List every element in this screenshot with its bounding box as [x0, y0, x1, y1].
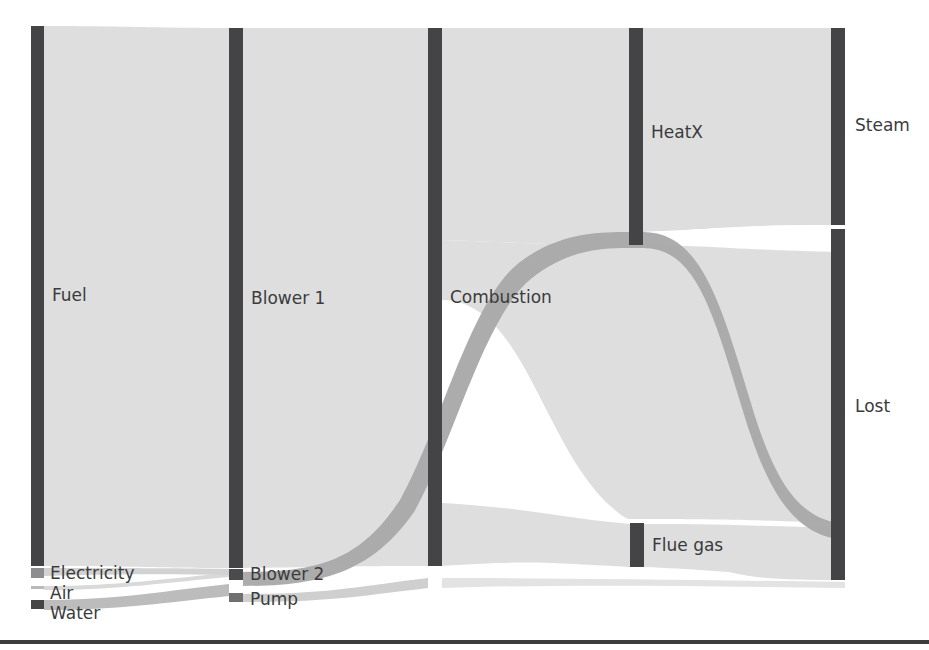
node-bar-steam[interactable]: [831, 28, 845, 225]
flow-combustion-to-heatx: [442, 28, 629, 245]
sankey-diagram: Fuel Blower 1 Combustion HeatX Steam Los…: [0, 0, 929, 650]
node-bar-blower2[interactable]: [229, 569, 243, 580]
flow-ribbons: [44, 26, 845, 610]
node-label-blower1: Blower 1: [251, 288, 325, 308]
node-label-fuel: Fuel: [52, 285, 87, 305]
node-label-lost: Lost: [855, 396, 890, 416]
node-label-flue-gas: Flue gas: [652, 535, 723, 555]
node-label-electricity: Electricity: [50, 563, 134, 583]
node-label-blower2: Blower 2: [250, 564, 324, 584]
node-bar-air[interactable]: [31, 586, 44, 589]
node-bar-combustion[interactable]: [428, 28, 442, 566]
node-bar-blower1[interactable]: [229, 28, 243, 568]
sankey-figure-page: Fuel Blower 1 Combustion HeatX Steam Los…: [0, 0, 929, 650]
flow-trailing-to-lost: [442, 578, 845, 588]
node-bar-heatx[interactable]: [629, 28, 643, 245]
node-bar-pump[interactable]: [229, 593, 243, 602]
node-bar-lost[interactable]: [831, 229, 845, 580]
node-label-pump: Pump: [250, 589, 298, 609]
node-label-heatx: HeatX: [651, 122, 703, 142]
node-label-water: Water: [50, 603, 100, 623]
node-label-air: Air: [50, 583, 73, 603]
node-bar-fuel[interactable]: [31, 26, 44, 566]
node-bar-flue-gas[interactable]: [630, 523, 644, 567]
bottom-divider: [0, 640, 929, 644]
node-bar-electricity[interactable]: [31, 568, 44, 578]
node-label-steam: Steam: [855, 115, 910, 135]
node-label-combustion: Combustion: [450, 287, 552, 307]
node-bar-water[interactable]: [31, 600, 44, 609]
